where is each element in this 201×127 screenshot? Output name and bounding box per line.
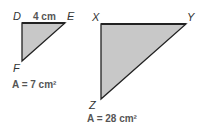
vertex-x-label: X — [91, 11, 100, 23]
small-area-label: A = 7 cm² — [12, 79, 57, 90]
triangle-xyz — [101, 24, 186, 99]
similar-triangles-diagram: D 4 cm E F A = 7 cm² X Y Z A = 28 cm² — [0, 0, 201, 127]
triangle-def — [22, 23, 65, 61]
large-area-label: A = 28 cm² — [87, 113, 138, 124]
side-de-label: 4 cm — [33, 11, 56, 22]
vertex-e-label: E — [67, 10, 75, 22]
vertex-f-label: F — [13, 62, 21, 74]
vertex-d-label: D — [13, 10, 21, 22]
vertex-z-label: Z — [88, 99, 97, 111]
vertex-y-label: Y — [187, 11, 195, 23]
